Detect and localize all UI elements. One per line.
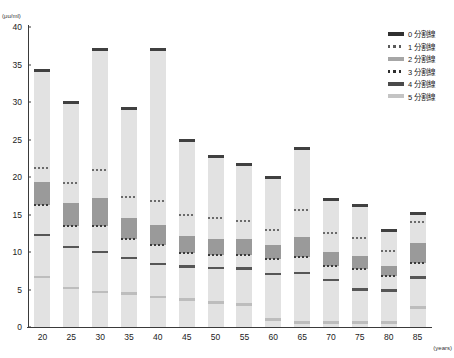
- legend-item-label: 5 分割線: [408, 91, 435, 102]
- y-tick-mark: [28, 252, 31, 253]
- series-marker-dotted: [381, 250, 397, 252]
- series-marker-solid-dark: [352, 204, 368, 207]
- series-marker-dotted: [34, 167, 50, 169]
- chart-legend: 0 分割線1 分割線2 分割線3 分割線4 分割線5 分割線: [388, 28, 452, 103]
- series-marker-band: [236, 239, 252, 255]
- series-marker-light: [63, 287, 79, 290]
- chart-title: [0, 0, 454, 8]
- series-marker-solid-dark: [410, 212, 426, 215]
- series-marker-band: [410, 243, 426, 263]
- bar-column: [179, 140, 195, 327]
- bar-column: [352, 206, 368, 328]
- series-marker-dotted-dark: [381, 275, 397, 277]
- series-marker-solid-dark: [179, 139, 195, 142]
- series-marker-band: [179, 236, 195, 253]
- series-marker-dotted: [179, 214, 195, 216]
- series-marker-dotted: [236, 220, 252, 222]
- y-tick-label: 40: [0, 22, 22, 32]
- series-marker-light: [294, 321, 310, 324]
- series-marker-solid-mid: [63, 246, 79, 249]
- series-marker-solid-dark: [208, 155, 224, 158]
- series-marker-band: [265, 245, 281, 259]
- bar-column: [236, 164, 252, 327]
- y-tick-label: 15: [0, 210, 22, 220]
- y-tick-label: 35: [0, 60, 22, 70]
- y-tick-mark: [28, 64, 31, 65]
- series-marker-light: [323, 321, 339, 324]
- series-marker-light: [381, 321, 397, 324]
- series-marker-solid-mid: [179, 265, 195, 268]
- x-tick-label: 35: [124, 332, 133, 342]
- y-tick-mark: [28, 327, 31, 328]
- series-marker-band: [121, 218, 137, 240]
- series-marker-dotted-dark: [121, 238, 137, 240]
- series-marker-dotted-dark: [92, 225, 108, 227]
- bar-column: [208, 156, 224, 327]
- series-marker-solid-mid: [92, 251, 108, 254]
- bar-column: [121, 108, 137, 327]
- series-marker-solid-mid: [410, 276, 426, 279]
- series-marker-light: [410, 306, 426, 309]
- legend-item-label: 2 分割線: [408, 53, 435, 64]
- series-marker-band: [208, 239, 224, 256]
- y-tick-mark: [28, 289, 31, 290]
- insulin-age-percentile-chart: (μu/ml) (years) 0510152025303540 2025303…: [0, 0, 454, 358]
- x-tick-label: 75: [355, 332, 364, 342]
- legend-item-label: 0 分割線: [408, 28, 435, 39]
- legend-item-label: 1 分割線: [408, 41, 435, 52]
- x-tick-label: 80: [384, 332, 393, 342]
- series-marker-dotted: [323, 232, 339, 234]
- series-marker-dotted: [150, 200, 166, 202]
- series-marker-dotted: [265, 229, 281, 231]
- series-marker-dotted-dark: [150, 244, 166, 246]
- series-marker-solid-dark: [92, 48, 108, 51]
- y-tick-mark: [28, 139, 31, 140]
- y-axis-unit-label: (μu/ml): [2, 13, 21, 19]
- series-marker-solid-mid: [323, 279, 339, 282]
- legend-item[interactable]: 0 分割線: [388, 28, 452, 39]
- series-marker-band: [294, 237, 310, 257]
- series-marker-dotted: [121, 196, 137, 198]
- series-marker-solid-mid: [34, 234, 50, 237]
- bar-column: [265, 177, 281, 327]
- series-marker-dotted-dark: [208, 254, 224, 256]
- legend-item[interactable]: 2 分割線: [388, 53, 452, 64]
- x-tick-label: 20: [38, 332, 47, 342]
- series-marker-band: [92, 198, 108, 226]
- series-marker-solid-mid: [208, 267, 224, 270]
- bar-column: [323, 200, 339, 328]
- series-marker-light: [121, 292, 137, 295]
- x-tick-label: 70: [326, 332, 335, 342]
- legend-item[interactable]: 1 分割線: [388, 41, 452, 52]
- legend-item[interactable]: 5 分割線: [388, 91, 452, 102]
- x-tick-label: 45: [182, 332, 191, 342]
- series-marker-solid-dark: [63, 101, 79, 104]
- y-tick-label: 20: [0, 172, 22, 182]
- series-marker-solid-dark: [236, 163, 252, 166]
- series-marker-solid-dark: [121, 107, 137, 110]
- bar-column: [150, 50, 166, 328]
- x-tick-label: 50: [211, 332, 220, 342]
- series-marker-light: [265, 318, 281, 321]
- series-marker-solid-mid: [121, 257, 137, 260]
- series-marker-solid-mid: [352, 288, 368, 291]
- series-marker-solid-mid: [381, 289, 397, 292]
- y-tick-mark: [28, 177, 31, 178]
- series-marker-dotted-dark: [294, 256, 310, 258]
- legend-item[interactable]: 3 分割線: [388, 66, 452, 77]
- legend-item[interactable]: 4 分割線: [388, 78, 452, 89]
- x-tick-label: 55: [240, 332, 249, 342]
- series-marker-solid-dark: [265, 176, 281, 179]
- x-tick-label: 30: [95, 332, 104, 342]
- series-marker-dotted-dark: [265, 258, 281, 260]
- series-marker-dotted-dark: [352, 268, 368, 270]
- x-axis-line: [27, 327, 432, 328]
- legend-item-label: 4 分割線: [408, 78, 435, 89]
- y-tick-label: 5: [0, 285, 22, 295]
- y-tick-label: 25: [0, 135, 22, 145]
- series-marker-solid-dark: [34, 69, 50, 72]
- y-tick-label: 0: [0, 322, 22, 332]
- series-marker-dotted-dark: [410, 262, 426, 264]
- legend-swatch-icon: [388, 32, 404, 36]
- y-tick-mark: [28, 27, 31, 28]
